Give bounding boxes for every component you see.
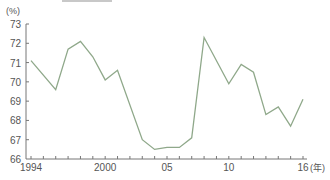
x-axis: 19942000051016 <box>20 156 309 173</box>
y-tick-label: 68 <box>10 115 22 126</box>
series-group <box>31 37 303 149</box>
line-chart: (%) 6667686970717273 19942000051016 (年) <box>0 0 330 180</box>
y-tick-label: 71 <box>10 58 22 69</box>
x-tick-label: 2000 <box>94 162 117 173</box>
y-tick-label: 70 <box>10 77 22 88</box>
y-tick-label: 72 <box>10 38 22 49</box>
x-tick-label: 1994 <box>20 162 43 173</box>
y-tick-label: 67 <box>10 135 22 146</box>
x-axis-unit-label: (年) <box>310 162 325 173</box>
x-tick-label: 16 <box>297 162 309 173</box>
y-axis-unit-label: (%) <box>6 6 20 16</box>
y-tick-label: 73 <box>10 19 22 30</box>
x-tick-label: 10 <box>223 162 235 173</box>
y-tick-label: 69 <box>10 96 22 107</box>
y-axis: 6667686970717273 <box>10 19 29 165</box>
x-tick-label: 05 <box>161 162 173 173</box>
series-line-rate <box>31 38 303 150</box>
